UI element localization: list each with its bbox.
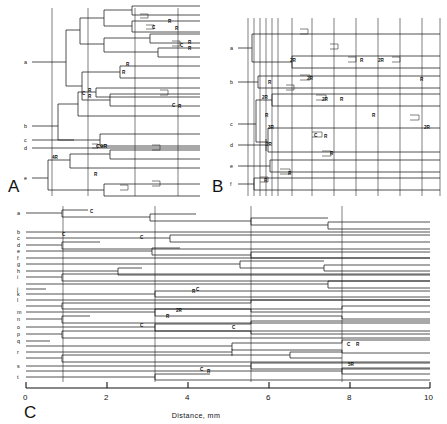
panel-c-rows <box>26 210 430 380</box>
panel-b-annot-7: 2R <box>322 97 329 102</box>
panel-a-label-c: c <box>24 137 27 143</box>
panel-a-row-labels: a b c d e <box>24 59 27 181</box>
panel-c-tick-3: 6 <box>266 393 271 402</box>
panel-b-annot-8: R <box>340 97 344 102</box>
panel-a-annot-2: C <box>152 25 156 30</box>
panel-b-annot-12: 2R <box>424 125 431 130</box>
panel-a-annot-13: C9R <box>96 143 107 149</box>
panel-c-label-t: t <box>17 374 19 380</box>
panel-a-annot-11: R <box>178 104 182 109</box>
panel-b-label-f: f <box>230 181 232 187</box>
panel-c-annot-5: 2R <box>176 308 183 313</box>
panel-c-annot-10: R <box>356 342 360 347</box>
panel-c-annot-13: 5R <box>348 362 355 367</box>
panel-c-annot-2: C <box>140 235 144 240</box>
panel-c-annot-6: R <box>166 314 170 319</box>
panel-c-label-m: m <box>17 309 22 315</box>
panel-b-annot-3: 2R <box>307 76 314 81</box>
panel-b-annot-5: R <box>268 80 272 85</box>
panel-a-annot-9: R <box>88 94 92 99</box>
panel-a-annot-1: R <box>175 26 179 31</box>
panel-c-annot-8: C <box>232 325 236 330</box>
panel-a-annot-4: R <box>188 46 192 51</box>
panel-b-annotations: 2R R 2R 2R R R 2R 2R R R R 3R 2R C R 2R … <box>262 58 431 183</box>
panel-c-label-g: g <box>17 261 20 267</box>
panel-b-label-e: e <box>230 163 233 169</box>
panel-a-annot-14: 4R <box>52 155 59 160</box>
panel-a-annot-15: R <box>94 172 98 177</box>
panel-c-label-e: e <box>17 248 20 254</box>
panel-c-row-labels: a b c d e f g h i j k l m n o p q r s t <box>16 210 22 380</box>
panel-c-annot-1: C <box>62 232 66 237</box>
panel-c-label-i: i <box>17 274 18 280</box>
panel-c-tick-4: 8 <box>347 393 352 402</box>
panel-c-label-a: a <box>17 210 20 216</box>
panel-b-letter: B <box>212 177 223 196</box>
panel-a-annot-12: C <box>172 103 176 108</box>
panel-b-annot-0: 2R <box>290 58 297 63</box>
panel-c-label-n: n <box>17 316 20 322</box>
panel-c-annot-12: R <box>207 369 211 374</box>
panel-b-annot-11: 3R <box>268 125 275 130</box>
panel-b-gridlines <box>248 18 440 196</box>
panel-c-annot-0: C <box>90 209 94 214</box>
panel-c-label-r: r <box>17 349 19 355</box>
panel-a-annot-0: R <box>168 19 172 24</box>
panel-c-label-o: o <box>17 324 20 330</box>
panel-c-label-c: c <box>17 235 20 241</box>
panel-c-label-q: q <box>17 338 20 344</box>
panel-c: 0 2 4 6 8 10 Distance, mm a b c d e f g … <box>16 206 433 422</box>
panel-b-row-labels: a b c d e f <box>230 45 233 187</box>
panel-c-tick-5: 10 <box>424 393 433 402</box>
panel-a-label-e: e <box>24 175 27 181</box>
panel-a-annot-7: R <box>122 70 126 75</box>
panel-b-label-b: b <box>230 79 233 85</box>
figure-root: a b c d e R R C R R C R R R R C R C C9R … <box>0 0 447 424</box>
panel-a: a b c d e R R C R R C R R R R C R C C9R … <box>8 6 200 196</box>
panel-c-annot-9: C <box>347 342 351 347</box>
panel-b-annot-1: R <box>360 58 364 63</box>
panel-a-annot-5: C <box>180 43 184 48</box>
panel-c-label-p: p <box>17 331 20 337</box>
panel-b: a b c d e f 2R R 2R 2R R R 2R 2R R R R 3… <box>212 18 440 196</box>
panel-c-axis: 0 2 4 6 8 10 Distance, mm <box>23 382 433 420</box>
panel-c-tick-1: 2 <box>104 393 109 402</box>
panel-b-annot-9: R <box>265 113 269 118</box>
panel-c-axis-label: Distance, mm <box>172 411 221 420</box>
panel-b-label-c: c <box>230 121 233 127</box>
panel-b-label-a: a <box>230 45 233 51</box>
panel-c-label-s: s <box>17 363 20 369</box>
panel-b-annot-14: R <box>324 134 328 139</box>
panel-c-annotations: C C C R C 2R R C C C R C R 5R <box>62 209 360 374</box>
panel-c-letter: C <box>24 403 36 422</box>
panel-b-annot-6: 2R <box>262 95 269 100</box>
panel-c-tick-2: 4 <box>185 393 190 402</box>
panel-b-annot-4: R <box>420 77 424 82</box>
panel-a-label-b: b <box>24 123 27 129</box>
figure-svg: a b c d e R R C R R C R R R R C R C C9R … <box>0 0 447 424</box>
panel-a-tree <box>32 6 200 196</box>
panel-c-label-l: l <box>17 297 18 303</box>
panel-b-annot-2: 2R <box>378 58 385 63</box>
panel-a-letter: A <box>8 177 20 196</box>
panel-b-label-d: d <box>230 142 233 148</box>
panel-b-annot-10: R <box>372 113 376 118</box>
panel-c-tick-0: 0 <box>23 393 28 402</box>
panel-a-annot-3: R <box>188 40 192 45</box>
panel-a-label-a: a <box>24 59 27 65</box>
panel-b-annot-15: 2R <box>266 142 273 147</box>
panel-a-label-d: d <box>24 145 27 151</box>
panel-b-tree <box>238 29 440 190</box>
